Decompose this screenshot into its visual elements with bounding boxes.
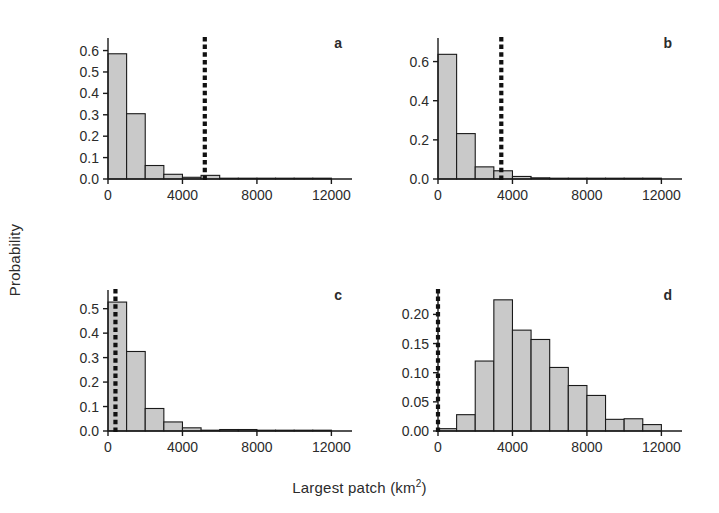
panel-c: 040008000120000.00.10.20.30.40.5c <box>60 272 360 467</box>
y-tick-label: 0.1 <box>80 150 100 166</box>
y-tick-label: 0.10 <box>402 365 429 381</box>
y-tick-label: 0.2 <box>80 374 100 390</box>
histogram-bar <box>550 367 569 431</box>
panel-letter-a: a <box>334 35 342 51</box>
panel-a: 040008000120000.00.10.20.30.40.50.6a <box>60 20 360 215</box>
panel-letter-b: b <box>663 35 672 51</box>
histogram-bar <box>457 415 476 431</box>
x-tick-label: 0 <box>104 187 112 203</box>
histogram-bar <box>606 419 625 431</box>
y-tick-label: 0.0 <box>80 171 100 187</box>
x-tick-label: 8000 <box>241 187 272 203</box>
y-tick-label: 0.6 <box>80 43 100 59</box>
histogram-bar <box>145 408 164 431</box>
histogram-bar <box>475 167 494 179</box>
histogram-bar <box>512 330 531 431</box>
y-tick-label: 0.4 <box>80 325 100 341</box>
histogram-bar <box>108 54 127 179</box>
bars-group <box>438 54 661 179</box>
panel-c-plot: 040008000120000.00.10.20.30.40.5c <box>60 272 360 467</box>
x-tick-label: 12000 <box>642 439 681 455</box>
y-tick-label: 0.3 <box>80 350 100 366</box>
histogram-bar <box>643 425 662 431</box>
x-tick-label: 4000 <box>497 439 528 455</box>
y-tick-label: 0.4 <box>410 93 430 109</box>
y-tick-label: 0.2 <box>80 128 100 144</box>
y-tick-label: 0.5 <box>80 64 100 80</box>
x-tick-label: 8000 <box>241 439 272 455</box>
x-axis-label: Largest patch (km2) <box>0 478 719 496</box>
histogram-bar <box>568 386 587 431</box>
histogram-bar <box>145 166 164 179</box>
panel-d-plot: 040008000120000.000.050.100.150.20d <box>390 272 690 467</box>
panel-b: 040008000120000.00.20.40.6b <box>390 20 690 215</box>
y-tick-label: 0.0 <box>80 423 100 439</box>
panel-b-plot: 040008000120000.00.20.40.6b <box>390 20 690 215</box>
panel-d: 040008000120000.000.050.100.150.20d <box>390 272 690 467</box>
bars-group <box>108 302 331 431</box>
x-tick-label: 8000 <box>571 187 602 203</box>
x-tick-label: 12000 <box>312 439 351 455</box>
x-tick-label: 4000 <box>497 187 528 203</box>
y-tick-label: 0.15 <box>402 336 429 352</box>
bars-group <box>438 300 661 431</box>
x-tick-label: 0 <box>104 439 112 455</box>
histogram-bar <box>624 419 643 431</box>
y-tick-label: 0.1 <box>80 399 100 415</box>
histogram-bar <box>127 351 146 431</box>
histogram-bar <box>164 422 183 431</box>
histogram-bar <box>475 361 494 431</box>
y-tick-label: 0.3 <box>80 107 100 123</box>
y-tick-label: 0.05 <box>402 394 429 410</box>
y-tick-label: 0.20 <box>402 306 429 322</box>
y-tick-label: 0.2 <box>410 132 430 148</box>
x-axis-label-text: Largest patch (km <box>292 479 415 496</box>
y-tick-label: 0.5 <box>80 301 100 317</box>
y-tick-label: 0.0 <box>410 171 430 187</box>
x-tick-label: 4000 <box>167 439 198 455</box>
x-tick-label: 0 <box>434 187 442 203</box>
x-tick-label: 0 <box>434 439 442 455</box>
bars-group <box>108 54 331 179</box>
x-axis-label-paren: ) <box>422 479 427 496</box>
x-tick-label: 12000 <box>312 187 351 203</box>
x-tick-label: 8000 <box>571 439 602 455</box>
y-tick-label: 0.00 <box>402 423 429 439</box>
panel-letter-c: c <box>334 287 342 303</box>
histogram-bar <box>587 395 606 431</box>
x-tick-label: 12000 <box>642 187 681 203</box>
histogram-bar <box>531 339 550 431</box>
panel-letter-d: d <box>663 287 672 303</box>
y-tick-label: 0.6 <box>410 54 430 70</box>
histogram-bar <box>164 174 183 179</box>
y-axis-label: Probability <box>6 185 23 335</box>
panel-a-plot: 040008000120000.00.10.20.30.40.50.6a <box>60 20 360 215</box>
histogram-bar <box>438 54 457 179</box>
histogram-bar <box>127 114 146 179</box>
x-tick-label: 4000 <box>167 187 198 203</box>
y-tick-label: 0.4 <box>80 85 100 101</box>
histogram-bar <box>457 134 476 179</box>
figure-panel-grid: Probability Largest patch (km2) 04000800… <box>0 0 719 513</box>
histogram-bar <box>494 300 513 431</box>
